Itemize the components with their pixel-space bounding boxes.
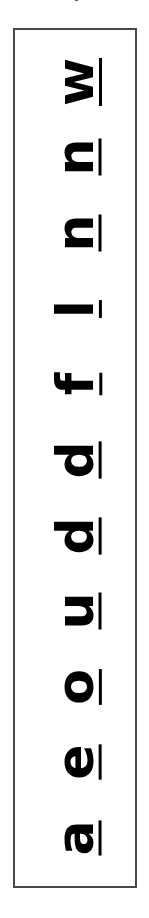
list-item: l bbox=[15, 272, 135, 346]
list-item: n bbox=[15, 120, 135, 194]
list-item: d bbox=[15, 423, 135, 497]
list-item: o bbox=[15, 650, 135, 724]
letter-panel: w n n l f d d u o e a bbox=[13, 28, 137, 888]
letter-glyph-e: e bbox=[49, 745, 101, 780]
list-item: w bbox=[15, 45, 135, 119]
letter-glyph-n-2: n bbox=[49, 215, 101, 252]
list-item: f bbox=[15, 347, 135, 421]
letter-glyph-l: l bbox=[49, 300, 101, 318]
clipped-glyph-fragment: j bbox=[0, 0, 149, 12]
letter-glyph-f: f bbox=[49, 373, 101, 396]
list-item: e bbox=[15, 725, 135, 799]
list-item: d bbox=[15, 499, 135, 573]
letter-glyph-n-1: n bbox=[49, 139, 101, 176]
letter-glyph-a: a bbox=[49, 821, 101, 856]
letter-glyph-d-2: d bbox=[49, 517, 101, 554]
letter-glyph-o: o bbox=[49, 669, 101, 705]
letter-glyph-u: u bbox=[49, 593, 101, 630]
list-item: u bbox=[15, 574, 135, 648]
list-item: a bbox=[15, 801, 135, 875]
list-item: n bbox=[15, 196, 135, 270]
letter-glyph-d-1: d bbox=[49, 441, 101, 478]
letter-glyph-w: w bbox=[49, 58, 101, 106]
letter-column: w n n l f d d u o e a bbox=[15, 30, 135, 886]
